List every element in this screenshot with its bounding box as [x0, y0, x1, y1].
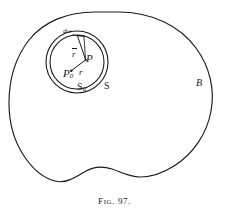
body-boundary-path: [9, 12, 212, 182]
figure-container: dω r P P0 r S0 S B FIG. 97.: [0, 0, 229, 215]
radius-r-label: r: [79, 68, 83, 77]
inner-sphere-label: S0: [77, 82, 86, 93]
body-region-label: B: [196, 78, 202, 88]
outer-sphere-label: S: [104, 81, 110, 91]
figure-drawing: [0, 0, 229, 215]
solid-angle-element-label: dω: [63, 28, 72, 35]
figure-caption: FIG. 97.: [0, 196, 229, 206]
point-p0-letter: P: [63, 67, 70, 79]
inner-sphere-subscript: 0: [83, 85, 87, 93]
r-bar-letter: r: [72, 48, 76, 59]
caption-suffix: . 97.: [112, 196, 131, 206]
overbar: [72, 48, 77, 49]
solid-angle-arc-patch: [77, 35, 85, 36]
point-p0-label: P0: [63, 68, 73, 80]
r-bar-label: r: [72, 48, 76, 59]
point-p-label: P: [86, 53, 93, 64]
caption-smallcaps: IG: [104, 198, 113, 206]
point-p0-subscript: 0: [70, 72, 74, 80]
